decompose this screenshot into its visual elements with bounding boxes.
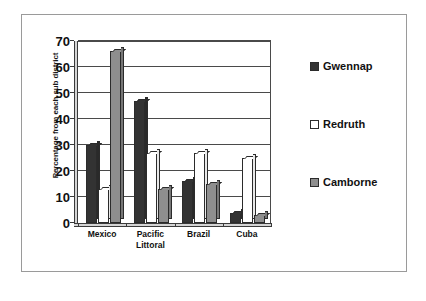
bar-face — [230, 213, 241, 223]
legend-item-redruth[interactable]: Redruth — [310, 118, 365, 130]
legend-item-gwennap[interactable]: Gwennap — [310, 60, 373, 72]
y-axis-tick-label: 40 — [56, 112, 70, 127]
y-axis-tick-label: 0 — [63, 216, 70, 231]
legend-label: Gwennap — [323, 60, 373, 72]
legend-swatch-redruth — [310, 120, 319, 129]
bar-side-face — [169, 185, 172, 219]
bar-side-face — [265, 211, 268, 219]
bar-face — [182, 181, 193, 223]
y-axis-tick-label: 30 — [56, 138, 70, 153]
bar-side-face — [217, 180, 220, 219]
bar-face — [134, 101, 145, 223]
legend-swatch-camborne — [310, 178, 319, 187]
y-axis-tick-label: 10 — [56, 190, 70, 205]
y-axis-tick-label: 70 — [56, 34, 70, 49]
x-axis-label-line: Cuba — [223, 229, 271, 240]
x-axis-label-line: Brazil — [175, 229, 223, 240]
x-axis-tick-mark — [223, 223, 224, 227]
x-axis-tick-mark — [126, 223, 127, 227]
bar-group — [223, 41, 271, 223]
bar-group — [78, 41, 126, 223]
chart-frame: Percentage from each sub district 010203… — [21, 14, 407, 272]
y-axis-tick-label: 20 — [56, 164, 70, 179]
legend-item-camborne[interactable]: Camborne — [310, 176, 377, 188]
x-axis-label-line: Littoral — [126, 240, 174, 251]
x-axis-label: Cuba — [223, 229, 271, 240]
x-axis-labels: MexicoPacificLittoralBrazilCuba — [78, 229, 271, 269]
x-axis-spine — [74, 223, 271, 227]
bar-face — [206, 184, 217, 223]
x-axis-tick-mark — [271, 223, 272, 227]
bar-face — [86, 145, 97, 223]
bar-face — [254, 215, 265, 223]
bar-face — [158, 189, 169, 223]
legend-label: Camborne — [323, 176, 377, 188]
x-axis-tick-mark — [78, 223, 79, 227]
x-axis-label: Mexico — [78, 229, 126, 240]
bars-layer — [78, 41, 271, 223]
bar-group — [126, 41, 174, 223]
x-axis-tick-mark — [175, 223, 176, 227]
bar-face — [146, 153, 157, 223]
plot-area: 010203040506070 — [78, 41, 271, 223]
legend-label: Redruth — [323, 118, 365, 130]
y-axis-tick-label: 50 — [56, 86, 70, 101]
x-axis-label: PacificLittoral — [126, 229, 174, 251]
bar-side-face — [121, 47, 124, 219]
x-axis-label: Brazil — [175, 229, 223, 240]
bar-face — [242, 158, 253, 223]
x-axis-label-line: Pacific — [126, 229, 174, 240]
legend-swatch-gwennap — [310, 62, 319, 71]
bar-face — [98, 189, 109, 223]
bar-group — [175, 41, 223, 223]
y-axis-tick-label: 60 — [56, 60, 70, 75]
x-axis-label-line: Mexico — [78, 229, 126, 240]
bar-side-face — [253, 154, 256, 219]
bar-face — [110, 51, 121, 223]
bar-face — [194, 153, 205, 223]
